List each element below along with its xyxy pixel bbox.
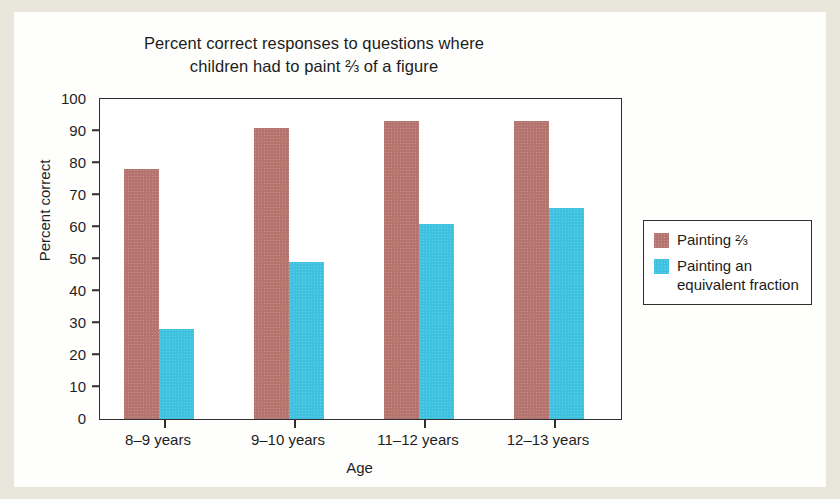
legend-item-equivalent-fraction[interactable]: Painting an equivalent fraction — [654, 256, 799, 294]
x-tick-label-12-13-years: 12–13 years — [507, 431, 590, 448]
x-tick-mark — [294, 419, 296, 428]
y-tick-label-20: 20 — [26, 346, 86, 363]
figure-canvas: Percent correct responses to questions w… — [14, 12, 826, 487]
chart-title-line-1: Percent correct responses to questions w… — [74, 32, 554, 55]
y-tick-label-30: 30 — [26, 314, 86, 331]
x-tick-mark — [554, 419, 556, 428]
chart-title: Percent correct responses to questions w… — [74, 32, 554, 78]
legend-label-painting-two-thirds: Painting ⅔ — [677, 230, 748, 249]
x-tick-label-11-12-years: 11–12 years — [377, 431, 458, 448]
bar-equivalent-fraction-12-13[interactable] — [549, 208, 584, 419]
x-tick-mark — [424, 419, 426, 428]
legend-swatch-icon-painting-two-thirds — [654, 233, 669, 248]
bar-equivalent-fraction-8-9[interactable] — [159, 329, 194, 419]
legend-swatch-icon-equivalent-fraction — [654, 259, 669, 274]
legend-item-painting-two-thirds[interactable]: Painting ⅔ — [654, 230, 799, 249]
legend-label-equivalent-fraction: Painting an equivalent fraction — [677, 256, 799, 294]
bar-painting-two-thirds-12-13[interactable] — [514, 121, 549, 419]
chart-legend: Painting ⅔ Painting an equivalent fracti… — [643, 220, 812, 305]
scanned-page: Percent correct responses to questions w… — [0, 0, 840, 499]
bar-painting-two-thirds-9-10[interactable] — [254, 128, 289, 419]
bar-equivalent-fraction-11-12[interactable] — [419, 224, 454, 419]
x-axis-label: Age — [99, 459, 620, 476]
y-tick-label-100: 100 — [26, 90, 86, 107]
x-tick-label-8-9-years: 8–9 years — [125, 431, 191, 448]
chart-title-line-2: children had to paint ⅔ of a figure — [74, 55, 554, 78]
y-axis-label: Percent correct — [36, 111, 53, 311]
y-tick-label-0: 0 — [26, 410, 86, 427]
bar-painting-two-thirds-11-12[interactable] — [384, 121, 419, 419]
bar-equivalent-fraction-9-10[interactable] — [289, 262, 324, 419]
y-axis: 100 90 80 70 60 50 40 30 20 10 0 — [14, 98, 99, 420]
x-tick-label-9-10-years: 9–10 years — [251, 431, 325, 448]
y-tick-label-10: 10 — [26, 378, 86, 395]
bar-painting-two-thirds-8-9[interactable] — [124, 169, 159, 419]
plot-area — [99, 98, 622, 420]
x-tick-mark — [164, 419, 166, 428]
